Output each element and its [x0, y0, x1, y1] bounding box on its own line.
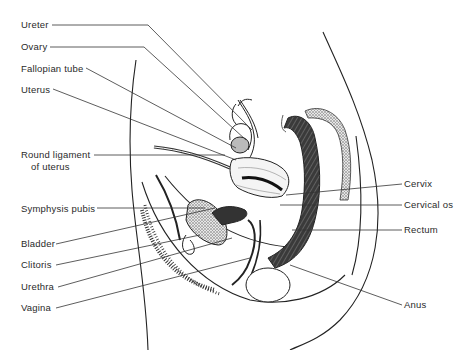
- label-urethra: Urethra: [21, 281, 54, 292]
- label-anus: Anus: [404, 299, 426, 310]
- label-clitoris: Clitoris: [21, 259, 52, 270]
- label-bladder: Bladder: [21, 238, 55, 249]
- label-round-ligament-cont: of uterus: [31, 161, 70, 172]
- diagram-drawing: [0, 0, 473, 350]
- label-uterus: Uterus: [21, 84, 50, 95]
- label-vagina: Vagina: [21, 302, 51, 313]
- anatomy-diagram: Ureter Ovary Fallopian tube Uterus Round…: [0, 0, 473, 350]
- label-ureter: Ureter: [21, 19, 49, 30]
- label-rectum: Rectum: [404, 224, 438, 235]
- label-round-ligament: Round ligament: [21, 149, 90, 160]
- uterus-shape: [230, 158, 289, 198]
- ovary-shape: [230, 99, 258, 165]
- label-cervix: Cervix: [404, 178, 432, 189]
- label-symphysis-pubis: Symphysis pubis: [21, 203, 95, 214]
- label-fallopian-tube: Fallopian tube: [21, 63, 83, 74]
- label-ovary: Ovary: [21, 41, 47, 52]
- label-cervical-os: Cervical os: [404, 199, 453, 210]
